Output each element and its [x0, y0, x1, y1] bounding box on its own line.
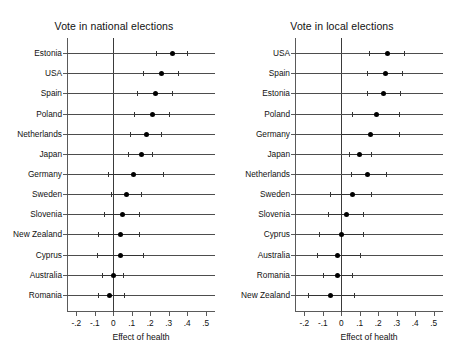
- row-baseline: [295, 214, 443, 215]
- point-estimate-marker: [170, 51, 175, 56]
- category-label: Germany: [28, 169, 67, 179]
- ci-cap-high: [352, 273, 353, 278]
- x-axis-tick-label: 0: [339, 318, 344, 328]
- ci-cap-high: [399, 132, 400, 137]
- point-estimate-marker: [374, 112, 379, 117]
- ci-cap-high: [371, 152, 372, 157]
- row-baseline: [67, 214, 215, 215]
- ci-cap-high: [143, 253, 144, 258]
- ci-cap-high: [400, 91, 401, 96]
- category-label: Sweden: [260, 189, 295, 199]
- category-label: Poland: [264, 109, 295, 119]
- x-axis-tick: [76, 312, 77, 316]
- x-axis-line: [67, 311, 215, 312]
- category-label: Spain: [41, 88, 67, 98]
- x-axis-tick-label: .1: [356, 318, 363, 328]
- category-label: Slovenia: [258, 209, 295, 219]
- plot-area: USASpainEstoniaPolandGermanyJapanNetherl…: [295, 38, 443, 312]
- point-estimate-marker: [118, 232, 123, 237]
- ci-cap-low: [111, 192, 112, 197]
- estimate-row: New Zealand: [295, 295, 443, 296]
- ci-cap-high: [124, 293, 125, 298]
- estimate-row: Slovenia: [295, 214, 443, 215]
- x-axis-tick-label: 0: [111, 318, 116, 328]
- row-baseline: [67, 295, 215, 296]
- ci-cap-low: [330, 192, 331, 197]
- ci-cap-low: [137, 91, 138, 96]
- panel-title: Vote in national elections: [0, 20, 228, 32]
- category-label: Germany: [256, 129, 295, 139]
- row-baseline: [67, 73, 215, 74]
- zero-reference-line: [113, 38, 114, 312]
- category-label: Poland: [36, 109, 67, 119]
- point-estimate-marker: [357, 152, 362, 157]
- ci-cap-high: [172, 91, 173, 96]
- ci-cap-low: [98, 232, 99, 237]
- x-axis-tick-label: -.1: [90, 318, 100, 328]
- x-axis-tick: [169, 312, 170, 316]
- estimate-row: USA: [295, 53, 443, 54]
- x-axis-tick-label: .5: [430, 318, 437, 328]
- estimate-row: Slovenia: [67, 214, 215, 215]
- estimate-row: USA: [67, 73, 215, 74]
- category-label: Estonia: [262, 88, 295, 98]
- y-axis-line: [67, 38, 68, 312]
- ci-cap-low: [104, 212, 105, 217]
- ci-cap-low: [128, 152, 129, 157]
- ci-cap-high: [363, 212, 364, 217]
- row-baseline: [67, 234, 215, 235]
- estimate-row: Netherlands: [67, 134, 215, 135]
- x-axis-tick: [187, 312, 188, 316]
- estimate-row: Australia: [67, 275, 215, 276]
- x-axis-label: Effect of health: [67, 332, 215, 342]
- estimate-row: Sweden: [67, 194, 215, 195]
- estimate-row: Australia: [295, 255, 443, 256]
- category-label: Cyprus: [36, 250, 67, 260]
- ci-cap-high: [402, 71, 403, 76]
- category-label: Netherlands: [17, 129, 67, 139]
- ci-cap-low: [367, 91, 368, 96]
- x-axis-tick-label: .4: [184, 318, 191, 328]
- point-estimate-marker: [339, 232, 344, 237]
- panel-national: Vote in national electionsEstoniaUSASpai…: [0, 0, 228, 364]
- ci-cap-low: [134, 112, 135, 117]
- x-axis-tick: [304, 312, 305, 316]
- estimate-row: Spain: [295, 73, 443, 74]
- ci-cap-low: [352, 112, 353, 117]
- point-estimate-marker: [139, 152, 144, 157]
- estimate-row: Poland: [295, 114, 443, 115]
- x-axis-label: Effect of health: [295, 332, 443, 342]
- category-label: Japan: [39, 149, 67, 159]
- category-label: USA: [273, 48, 295, 58]
- ci-cap-low: [108, 172, 109, 177]
- point-estimate-marker: [328, 293, 333, 298]
- estimate-row: Cyprus: [67, 255, 215, 256]
- x-axis-line: [295, 311, 443, 312]
- ci-cap-low: [102, 273, 103, 278]
- category-label: Cyprus: [264, 229, 295, 239]
- panel-title: Vote in local elections: [228, 20, 456, 32]
- ci-cap-low: [369, 51, 370, 56]
- category-label: Slovenia: [30, 209, 67, 219]
- category-label: New Zealand: [241, 290, 295, 300]
- ci-cap-low: [328, 212, 329, 217]
- point-estimate-marker: [335, 273, 340, 278]
- point-estimate-marker: [153, 91, 158, 96]
- ci-cap-high: [187, 51, 188, 56]
- point-estimate-marker: [350, 192, 355, 197]
- estimate-row: Romania: [67, 295, 215, 296]
- ci-cap-low: [97, 253, 98, 258]
- point-estimate-marker: [335, 253, 340, 258]
- estimate-row: Japan: [67, 154, 215, 155]
- category-label: Spain: [269, 68, 295, 78]
- ci-cap-high: [399, 112, 400, 117]
- ci-cap-low: [351, 172, 352, 177]
- estimate-row: Germany: [67, 174, 215, 175]
- ci-cap-high: [139, 212, 140, 217]
- point-estimate-marker: [385, 51, 390, 56]
- x-axis-tick: [341, 312, 342, 316]
- estimate-row: Netherlands: [295, 174, 443, 175]
- ci-cap-low: [349, 152, 350, 157]
- point-estimate-marker: [107, 293, 112, 298]
- ci-cap-high: [169, 112, 170, 117]
